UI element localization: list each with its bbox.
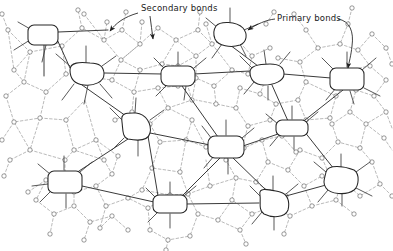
- crystallite-node: [260, 189, 289, 216]
- crystallite-node: [214, 22, 246, 46]
- crystallite-node: [153, 195, 187, 213]
- crystallite-node: [276, 120, 308, 136]
- crystallite-node: [161, 66, 195, 86]
- crystallite-node: [70, 63, 104, 86]
- crystallite-node: [330, 68, 364, 90]
- crystallite-node: [208, 136, 244, 158]
- crystallite-node: [48, 171, 82, 193]
- secondary-bonds-label: Secondary bonds: [141, 3, 218, 13]
- primary-bonds-label: Primary bonds: [277, 13, 341, 23]
- crystallite-node: [28, 25, 58, 45]
- crystallite-node: [250, 64, 284, 85]
- crystallite-node: [324, 167, 358, 194]
- network-structure-diagram: Secondary bonds Primary bonds: [0, 0, 393, 251]
